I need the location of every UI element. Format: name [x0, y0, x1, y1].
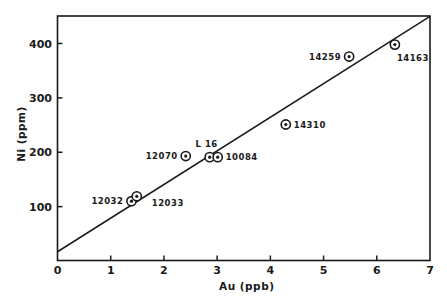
point-label: L 16	[196, 139, 218, 149]
data-point: 14310	[281, 120, 326, 130]
x-tick-label: 0	[54, 264, 62, 277]
data-point: 12070	[146, 151, 191, 161]
x-tick-label: 7	[426, 264, 434, 277]
x-tick-label: 1	[107, 264, 115, 277]
y-axis-title: Ni (ppm)	[15, 106, 27, 162]
data-point: 14163	[390, 40, 429, 63]
y-tick-label: 100	[29, 201, 52, 214]
point-label: 12070	[146, 151, 178, 161]
point-label: 14163	[397, 53, 429, 63]
plot-frame	[58, 16, 431, 261]
x-tick-label: 3	[213, 264, 221, 277]
y-tick-label: 300	[29, 92, 52, 105]
x-tick-label: 6	[373, 264, 381, 277]
point-label: 12033	[152, 198, 184, 208]
point-label: 14310	[294, 120, 326, 130]
x-tick-label: 2	[160, 264, 168, 277]
data-point: 12033	[132, 192, 184, 209]
data-point: 10084	[213, 152, 258, 162]
y-tick-label: 200	[29, 146, 52, 159]
data-point: 14259	[309, 52, 354, 62]
x-tick-label: 5	[320, 264, 328, 277]
point-label: 10084	[226, 152, 258, 162]
y-tick-label: 400	[29, 38, 52, 51]
data-point: 12032	[91, 196, 136, 206]
scatter-chart: 01234567 100200300400 120321203312070L 1…	[0, 0, 447, 302]
x-axis-title: Au (ppb)	[219, 280, 274, 292]
x-tick-label: 4	[267, 264, 275, 277]
point-label: 12032	[91, 196, 123, 206]
point-label: 14259	[309, 52, 341, 62]
regression-line	[58, 16, 431, 251]
x-axis: 01234567	[54, 256, 434, 278]
